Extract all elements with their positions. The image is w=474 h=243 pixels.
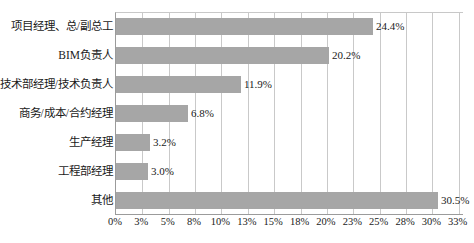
- x-tick-label: 23%: [343, 216, 362, 227]
- category-label: 其他: [91, 186, 113, 215]
- x-tick-label: 0%: [108, 216, 122, 227]
- bar-value-label: 3.0%: [151, 157, 174, 186]
- category-label: 商务/成本/合约经理: [19, 99, 113, 128]
- x-tick-label: 5%: [161, 216, 175, 227]
- bar-row: 工程部经理3.0%: [0, 157, 474, 186]
- bar-value-label: 11.9%: [244, 70, 272, 99]
- bar-row: 项目经理、总/副总工24.4%: [0, 12, 474, 41]
- bar-row: 其他30.5%: [0, 186, 474, 215]
- category-label: BIM负责人: [58, 41, 113, 70]
- category-label: 生产经理: [69, 128, 113, 157]
- x-tick-label: 13%: [237, 216, 256, 227]
- x-tick-label: 20%: [316, 216, 335, 227]
- x-tick-label: 15%: [264, 216, 283, 227]
- bar-row: 商务/成本/合约经理6.8%: [0, 99, 474, 128]
- bar-value-label: 30.5%: [441, 186, 469, 215]
- bar-value-label: 6.8%: [191, 99, 214, 128]
- x-tick-label: 8%: [187, 216, 201, 227]
- bar-row: 技术部经理/技术负责人11.9%: [0, 70, 474, 99]
- x-tick-label: 28%: [395, 216, 414, 227]
- bar-row: BIM负责人20.2%: [0, 41, 474, 70]
- bar: [116, 47, 329, 64]
- bar-row: 生产经理3.2%: [0, 128, 474, 157]
- bar: [116, 18, 373, 35]
- x-tick-label: 33%: [448, 216, 467, 227]
- bar-chart: 项目经理、总/副总工24.4%BIM负责人20.2%技术部经理/技术负责人11.…: [0, 0, 474, 243]
- category-label: 项目经理、总/副总工: [11, 12, 113, 41]
- x-tick-label: 3%: [134, 216, 148, 227]
- bar: [116, 192, 438, 209]
- x-tick-label: 18%: [290, 216, 309, 227]
- x-tick-label: 10%: [211, 216, 230, 227]
- bar: [116, 163, 148, 180]
- category-label: 技术部经理/技术负责人: [0, 70, 113, 99]
- bar-value-label: 3.2%: [153, 128, 176, 157]
- bar-value-label: 24.4%: [376, 12, 404, 41]
- bar-rows: 项目经理、总/副总工24.4%BIM负责人20.2%技术部经理/技术负责人11.…: [0, 12, 474, 215]
- bar: [116, 105, 188, 122]
- bar: [116, 134, 150, 151]
- bar-value-label: 20.2%: [332, 41, 360, 70]
- x-tick-label: 30%: [422, 216, 441, 227]
- x-tick-label: 25%: [369, 216, 388, 227]
- x-axis-tick-labels: 0%3%5%8%10%13%15%18%20%23%25%28%30%33%: [0, 216, 474, 236]
- bar: [116, 76, 241, 93]
- category-label: 工程部经理: [58, 157, 113, 186]
